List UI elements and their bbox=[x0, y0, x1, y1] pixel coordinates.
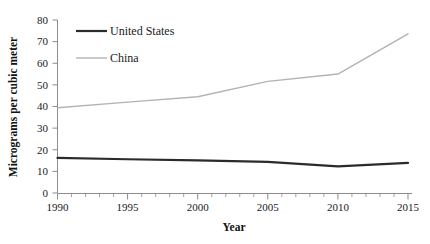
y-axis-tick-label: 30 bbox=[37, 122, 49, 134]
x-axis-tick-label: 2005 bbox=[257, 201, 280, 213]
y-axis-tick-label: 80 bbox=[37, 14, 49, 26]
x-axis-title: Year bbox=[223, 221, 246, 233]
legend-label-united-states: United States bbox=[110, 24, 175, 38]
y-axis-tick-labels: 01020304050607080 bbox=[37, 14, 49, 199]
y-axis-tick-label: 10 bbox=[37, 165, 49, 177]
y-axis-tick-label: 0 bbox=[43, 187, 49, 199]
y-axis-tick-label: 50 bbox=[37, 79, 49, 91]
y-axis-tick-label: 60 bbox=[37, 57, 49, 69]
chart-canvas: 01020304050607080 1990199520002005201020… bbox=[0, 0, 430, 244]
x-axis-tick-label: 1990 bbox=[47, 201, 70, 213]
y-axis-tick-label: 20 bbox=[37, 144, 49, 156]
x-axis-tick-label: 2010 bbox=[327, 201, 350, 213]
y-axis-title: Micrograms per cubic meter bbox=[7, 37, 20, 177]
x-axis-tick-label: 2000 bbox=[187, 201, 210, 213]
y-axis-tick-label: 70 bbox=[37, 35, 49, 47]
y-axis-tick-label: 40 bbox=[37, 100, 49, 112]
x-axis-tick-label: 2015 bbox=[397, 201, 420, 213]
line-chart: 01020304050607080 1990199520002005201020… bbox=[0, 0, 430, 244]
legend-label-china: China bbox=[110, 51, 139, 65]
x-axis-tick-label: 1995 bbox=[117, 201, 140, 213]
